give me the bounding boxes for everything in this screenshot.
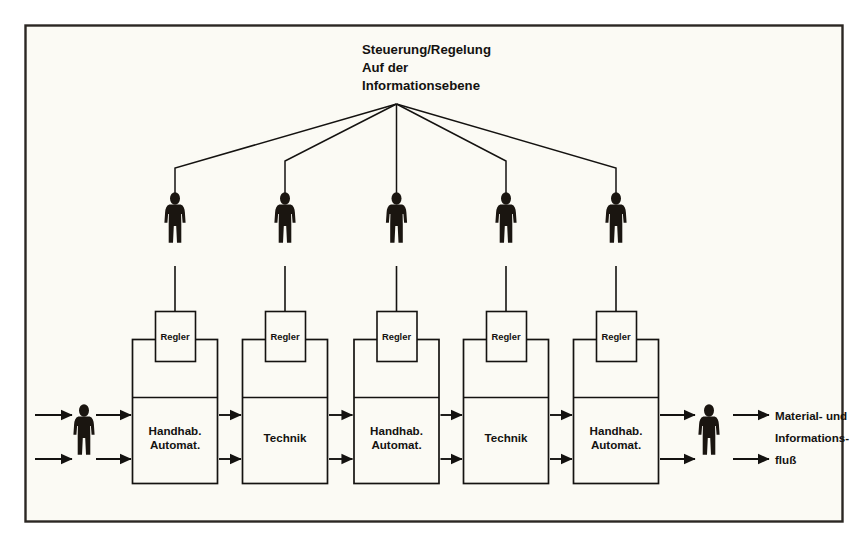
- station-3-label-line-1: Handhab.: [370, 424, 423, 437]
- figure-title-line-1: Steuerung/Regelung: [362, 42, 491, 57]
- station-1-label-line-1: Handhab.: [149, 424, 202, 437]
- controller-1[interactable]: Regler: [156, 312, 196, 362]
- controller-2-label: Regler: [270, 331, 300, 342]
- controller-2[interactable]: Regler: [266, 312, 306, 362]
- diagram-canvas: Steuerung/Regelung Auf der Informationse…: [0, 0, 863, 544]
- station-1-label-line-2: Automat.: [150, 438, 200, 451]
- controller-5-label: Regler: [601, 331, 631, 342]
- station-5-label-line-2: Automat.: [591, 438, 641, 451]
- controller-4[interactable]: Regler: [487, 312, 527, 362]
- controller-3[interactable]: Regler: [377, 312, 417, 362]
- flow-legend-line-3: fluß: [775, 453, 796, 466]
- station-4-label-line-1: Technik: [485, 431, 529, 444]
- station-3-label-line-2: Automat.: [371, 438, 421, 451]
- figure-title-line-2: Auf der: [362, 60, 408, 75]
- flow-legend-line-1: Material- und: [775, 409, 847, 422]
- controller-4-label: Regler: [491, 331, 521, 342]
- figure-title-line-3: Informationsebene: [362, 78, 480, 93]
- station-2-label-line-1: Technik: [264, 431, 308, 444]
- station-5-label-line-1: Handhab.: [590, 424, 643, 437]
- flow-legend-line-2: Informations-: [775, 431, 849, 444]
- controller-5[interactable]: Regler: [597, 312, 637, 362]
- controller-3-label: Regler: [382, 331, 412, 342]
- figure-root: Steuerung/Regelung Auf der Informationse…: [0, 0, 863, 544]
- controller-1-label: Regler: [160, 331, 190, 342]
